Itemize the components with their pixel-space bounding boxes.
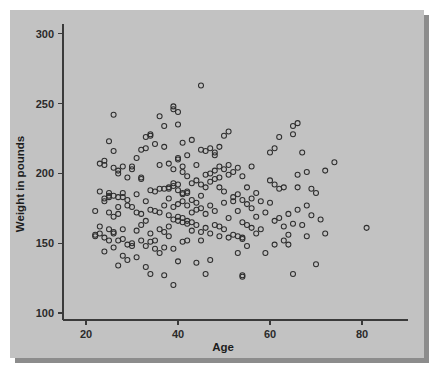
- data-point: [235, 209, 240, 214]
- data-point: [199, 206, 204, 211]
- data-point: [295, 207, 300, 212]
- data-point: [208, 171, 213, 176]
- data-point: [189, 220, 194, 225]
- data-point: [291, 123, 296, 128]
- data-point: [143, 146, 148, 151]
- data-point: [268, 200, 273, 205]
- data-point: [309, 186, 314, 191]
- data-point: [226, 129, 231, 134]
- data-point: [189, 137, 194, 142]
- data-point: [268, 178, 273, 183]
- data-point: [235, 165, 240, 170]
- data-point: [116, 263, 121, 268]
- data-point: [134, 156, 139, 161]
- data-point: [162, 230, 167, 235]
- data-point: [171, 204, 176, 209]
- data-point: [189, 210, 194, 215]
- data-point: [291, 221, 296, 226]
- data-point: [162, 203, 167, 208]
- data-point: [102, 235, 107, 240]
- data-point: [107, 210, 112, 215]
- data-point: [111, 245, 116, 250]
- data-point: [277, 216, 282, 221]
- data-point: [116, 204, 121, 209]
- data-point: [235, 192, 240, 197]
- data-point: [291, 132, 296, 137]
- data-point: [143, 199, 148, 204]
- data-point: [203, 185, 208, 190]
- x-tick-label: 80: [356, 328, 368, 340]
- data-point: [304, 234, 309, 239]
- data-point: [281, 238, 286, 243]
- data-point: [134, 255, 139, 260]
- data-point: [217, 144, 222, 149]
- data-point: [143, 244, 148, 249]
- data-point: [249, 225, 254, 230]
- data-point: [314, 262, 319, 267]
- data-point: [323, 231, 328, 236]
- data-point: [231, 170, 236, 175]
- data-point: [263, 250, 268, 255]
- x-axis-title: Age: [212, 341, 234, 353]
- data-point: [176, 259, 181, 264]
- data-point: [185, 153, 190, 158]
- data-point: [323, 168, 328, 173]
- y-tick-label: 250: [36, 98, 54, 110]
- data-point: [157, 210, 162, 215]
- data-point: [300, 223, 305, 228]
- data-point: [162, 273, 167, 278]
- data-point: [286, 232, 291, 237]
- data-point: [125, 257, 130, 262]
- data-point: [111, 149, 116, 154]
- data-point: [162, 123, 167, 128]
- data-point: [194, 223, 199, 228]
- data-point: [139, 223, 144, 228]
- data-point: [194, 200, 199, 205]
- x-axis-ticks: 20406080: [80, 320, 368, 340]
- data-point: [254, 231, 259, 236]
- data-point: [222, 133, 227, 138]
- data-point: [194, 163, 199, 168]
- data-point: [139, 238, 144, 243]
- data-point: [295, 185, 300, 190]
- data-point: [249, 206, 254, 211]
- data-point: [153, 189, 158, 194]
- data-point: [153, 246, 158, 251]
- data-point: [203, 211, 208, 216]
- data-point: [180, 164, 185, 169]
- data-point: [93, 209, 98, 214]
- data-point: [281, 185, 286, 190]
- data-point: [314, 190, 319, 195]
- scatter-plot-svg: 100150200250300 20406080 Weight in pound…: [10, 10, 424, 358]
- y-tick-label: 100: [36, 307, 54, 319]
- data-point: [162, 144, 167, 149]
- data-point: [277, 135, 282, 140]
- data-point: [245, 244, 250, 249]
- data-point: [185, 203, 190, 208]
- data-point: [258, 199, 263, 204]
- data-point: [199, 83, 204, 88]
- data-point: [217, 164, 222, 169]
- data-point: [120, 227, 125, 232]
- data-point: [134, 228, 139, 233]
- data-point: [111, 165, 116, 170]
- data-point: [107, 238, 112, 243]
- data-point: [199, 193, 204, 198]
- y-tick-label: 150: [36, 237, 54, 249]
- data-point: [222, 200, 227, 205]
- data-point: [180, 170, 185, 175]
- data-point: [116, 211, 121, 216]
- data-point: [194, 260, 199, 265]
- data-point: [203, 225, 208, 230]
- data-point: [309, 213, 314, 218]
- chart-panel: 100150200250300 20406080 Weight in pound…: [10, 10, 424, 358]
- data-point: [203, 271, 208, 276]
- data-point: [240, 220, 245, 225]
- data-point: [258, 227, 263, 232]
- data-point: [107, 139, 112, 144]
- data-point: [249, 164, 254, 169]
- data-point: [171, 283, 176, 288]
- data-point: [143, 264, 148, 269]
- data-point: [171, 167, 176, 172]
- y-axis-title: Weight in pounds: [14, 136, 26, 232]
